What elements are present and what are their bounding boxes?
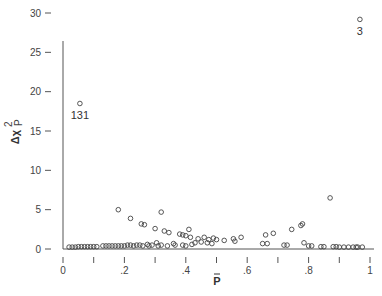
data-point — [302, 241, 307, 246]
data-point — [138, 243, 143, 248]
data-point — [358, 17, 363, 22]
data-points — [67, 17, 365, 249]
data-point — [95, 244, 100, 249]
data-point — [271, 231, 276, 236]
data-point — [122, 244, 127, 249]
x-tick-label: 0 — [60, 265, 66, 276]
x-tick-label: .8 — [304, 265, 313, 276]
data-point — [210, 241, 215, 246]
data-point — [131, 244, 136, 249]
data-point — [188, 235, 193, 240]
data-point — [202, 235, 207, 240]
y-tick-label: 25 — [30, 47, 42, 58]
data-point — [165, 244, 170, 249]
x-axis: 0.2.4.6.81 — [60, 249, 374, 276]
x-tick-label: .2 — [120, 265, 129, 276]
data-point — [239, 235, 244, 240]
y-tick-label: 10 — [30, 165, 42, 176]
data-point — [180, 233, 185, 238]
data-point — [184, 244, 189, 249]
point-label: 3 — [357, 25, 363, 37]
y-axis-label: Δχ — [9, 129, 21, 144]
data-point — [184, 233, 189, 238]
data-point — [167, 230, 172, 235]
data-point — [222, 238, 227, 243]
x-tick-label: .4 — [182, 265, 191, 276]
point-label: 131 — [71, 109, 89, 121]
scatter-plot: 051015202530 0.2.4.6.81 1313 PΔχ2P — [0, 0, 382, 296]
data-point — [328, 196, 333, 201]
data-point — [177, 232, 182, 237]
data-point — [289, 227, 294, 232]
data-point — [116, 207, 121, 212]
data-point — [309, 244, 314, 249]
data-point — [139, 222, 144, 227]
y-tick-label: 15 — [30, 126, 42, 137]
data-point — [159, 243, 164, 248]
x-tick-label: .6 — [243, 265, 252, 276]
x-axis-label: P — [213, 275, 220, 287]
data-point — [199, 240, 204, 245]
data-point — [141, 244, 146, 249]
data-point — [78, 101, 83, 106]
y-axis: 051015202530 — [30, 8, 63, 255]
x-tick-label: 1 — [367, 265, 373, 276]
y-tick-label: 5 — [35, 204, 41, 215]
data-point — [187, 227, 192, 232]
data-point — [260, 241, 265, 246]
data-point — [180, 243, 185, 248]
data-point — [265, 241, 270, 246]
data-point — [162, 229, 167, 234]
y-tick-label: 30 — [30, 8, 42, 19]
data-point — [159, 210, 164, 215]
data-point — [322, 244, 327, 249]
data-point — [142, 222, 147, 227]
data-point — [285, 243, 290, 248]
y-axis-label-sub: P — [13, 119, 24, 126]
y-tick-label: 20 — [30, 86, 42, 97]
axis-labels: PΔχ2P — [3, 119, 221, 287]
point-annotations: 1313 — [71, 25, 363, 121]
data-point — [128, 216, 133, 221]
data-point — [128, 243, 133, 248]
data-point — [263, 233, 268, 238]
y-tick-label: 0 — [35, 244, 41, 255]
data-point — [150, 243, 155, 248]
data-point — [153, 226, 158, 231]
